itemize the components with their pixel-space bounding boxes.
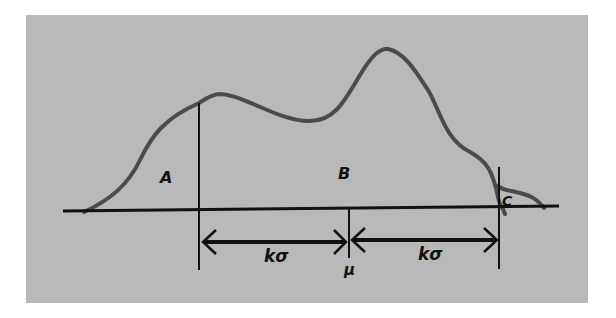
label-region-b: B <box>338 164 350 183</box>
label-left-k-sigma: kσ <box>264 246 289 266</box>
label-mean: μ <box>343 261 355 279</box>
label-right-k-sigma: kσ <box>418 244 443 264</box>
label-region-c: C <box>502 193 513 209</box>
label-region-a: A <box>158 168 172 187</box>
distribution-diagram: A B C μ kσ kσ <box>0 0 616 318</box>
background-panel <box>26 15 588 303</box>
diagram-stage: A B C μ kσ kσ <box>0 0 616 318</box>
